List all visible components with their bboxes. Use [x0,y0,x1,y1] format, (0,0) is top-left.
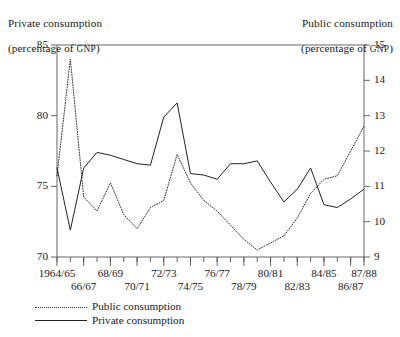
legend-item-public: Public consumption [35,300,184,314]
series-line-private-consumption [57,103,364,230]
right-axis-title-sub-prefix: (percentage of [301,42,370,54]
xtick-label-upper: 87/88 [329,268,399,279]
ytick-label-right: 9 [374,251,400,262]
legend-label-private: Private consumption [92,314,184,328]
xtick-label-lower: 86/87 [316,281,386,292]
left-axis-title-main: Private consumption [8,17,102,29]
chart-series [57,59,364,250]
left-axis-title-sub-suffix: ) [96,42,100,54]
right-axis-title-main: Public consumption [302,17,393,29]
ytick-label-right: 15 [374,39,400,50]
legend-key-solid [35,315,87,325]
legend-key-dotted [35,302,87,312]
ytick-label-left: 75 [14,180,48,191]
chart-legend: Public consumption Private consumption [35,300,184,327]
series-line-public-consumption [57,59,364,250]
ytick-label-right: 10 [374,216,400,227]
chart-ticks [51,45,370,266]
ytick-label-right: 14 [374,74,400,85]
ytick-label-left: 80 [14,110,48,121]
ytick-label-left: 85 [14,39,48,50]
ytick-label-right: 11 [374,180,400,191]
ytick-label-left: 70 [14,251,48,262]
chart-frame [57,45,364,257]
left-axis-title-unit: GNP [77,44,97,54]
legend-item-private: Private consumption [35,314,184,328]
legend-label-public: Public consumption [92,300,181,314]
ytick-label-right: 13 [374,110,400,121]
ytick-label-right: 12 [374,145,400,156]
